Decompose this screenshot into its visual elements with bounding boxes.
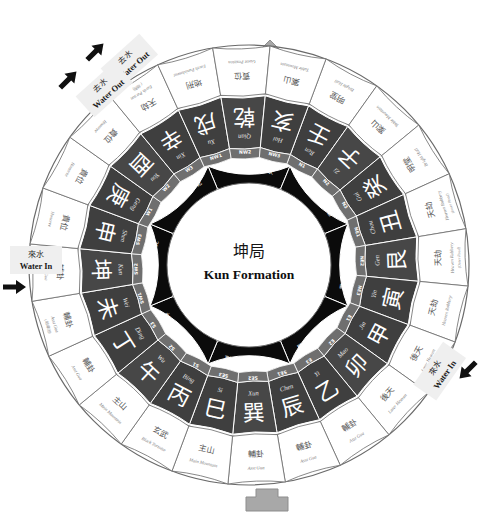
mountain-label-cn: 艮: [384, 248, 410, 271]
outer-ring-cell: [213, 46, 270, 96]
sitting-marker[interactable]: [246, 489, 288, 511]
mountain-label-cn: 巽: [243, 400, 266, 426]
outer-label-en: Asst Gua: [247, 465, 266, 471]
sector-code-label: NW2: [239, 149, 251, 154]
outer-label-en: Guest Position: [228, 59, 256, 65]
outer-label-cn: 賓位: [234, 71, 250, 82]
sitting-marker-shape: [246, 489, 288, 511]
outer-label-cn: 輔卦: [247, 449, 263, 460]
formation-title-cn: 坤局: [233, 242, 265, 261]
arrow-glyph: [82, 39, 108, 65]
mountain-label-py: Gen: [373, 255, 380, 266]
formation-title-en: Kun Formation: [204, 267, 295, 282]
water-flow-label: 來水Water In: [10, 246, 62, 274]
core-disc: [167, 183, 331, 347]
water-flow-cn: 來水: [28, 249, 44, 259]
arrow-glyph: [55, 67, 81, 93]
luopan-diagram: 向Facing明堂Bright Hall案山Table Mountain明堂Br…: [0, 0, 498, 518]
outer-label-cn: 天劫: [433, 250, 444, 266]
mountain-label-py: Xun: [247, 389, 259, 396]
outer-label-sub: (Outer Road): [456, 246, 462, 268]
water-flow-arrow: [82, 39, 108, 65]
sector-code-label: SW2: [133, 263, 138, 275]
compass-wheel: 向Facing明堂Bright Hall案山Table Mountain明堂Br…: [0, 0, 498, 518]
direction-label-cn: 震: [338, 283, 347, 291]
sector-code-label: NE2: [359, 256, 364, 266]
sector-code-label: SE2: [248, 375, 258, 380]
mountain-label-cn: 坤: [88, 259, 114, 282]
water-flow-arrow: [55, 67, 81, 93]
outer-ring-cell: [228, 434, 285, 484]
water-flow-en: Water In: [20, 261, 53, 271]
mountain-label-cn: 乾: [232, 104, 255, 130]
water-flow-arrow: [3, 280, 26, 294]
arrow-glyph: [3, 280, 26, 294]
mountain-label-py: Qian: [238, 133, 251, 140]
mountain-label-py: Kun: [117, 263, 124, 275]
